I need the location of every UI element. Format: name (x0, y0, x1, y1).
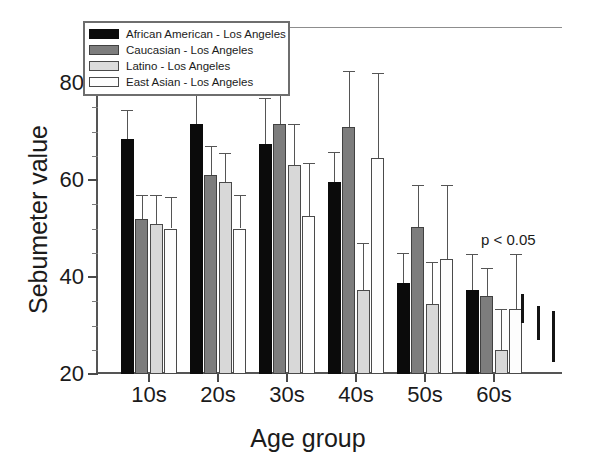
bar (150, 224, 163, 374)
x-tick (286, 374, 288, 382)
error-bar-cap (328, 152, 340, 153)
y-tick-major (88, 373, 98, 375)
bar (371, 158, 384, 374)
legend-item: Caucasian - Los Angeles (89, 42, 284, 57)
y-tick-major (88, 179, 98, 181)
legend-item: African American - Los Angeles (89, 26, 284, 41)
error-bar-stem (294, 124, 295, 165)
legend-swatch-icon (89, 29, 119, 39)
error-bar-cap (219, 153, 231, 154)
error-bar-cap (412, 185, 424, 186)
error-bar-stem (418, 185, 419, 227)
bar (397, 283, 410, 374)
x-tick-label: 20s (183, 382, 253, 408)
error-bar-cap (136, 195, 148, 196)
bar (302, 216, 315, 374)
y-tick-major (88, 276, 98, 278)
x-tick-label: 50s (390, 382, 460, 408)
error-bar-cap (205, 146, 217, 147)
bar (480, 296, 493, 374)
bar (219, 182, 232, 374)
error-bar-stem (378, 73, 379, 158)
error-bar-stem (142, 195, 143, 219)
bar (440, 259, 453, 374)
error-bar-cap (481, 268, 493, 269)
error-bar-stem (265, 98, 266, 144)
error-bar-stem (349, 71, 350, 127)
error-bar-cap (357, 243, 369, 244)
error-bar-stem (472, 254, 473, 290)
x-tick (355, 374, 357, 382)
x-tick-label: 10s (114, 382, 184, 408)
y-tick-minor (92, 204, 98, 205)
error-bar-cap (121, 110, 133, 111)
sebumeter-bar-chart: Sebumeter value Age group 20406080 10s20… (0, 0, 589, 474)
error-bar-cap (165, 197, 177, 198)
bar (273, 124, 286, 374)
y-tick-label: 40 (40, 264, 84, 290)
bar (190, 124, 203, 374)
bar (164, 229, 177, 375)
y-tick-label: 60 (40, 167, 84, 193)
error-bar-cap (259, 98, 271, 99)
error-bar-stem (447, 185, 448, 259)
error-bar-stem (516, 254, 517, 310)
error-bar-cap (343, 71, 355, 72)
error-bar-cap (234, 195, 246, 196)
legend-swatch-icon (89, 61, 119, 71)
x-tick (148, 374, 150, 382)
error-bar-stem (171, 197, 172, 229)
y-tick-minor (92, 229, 98, 230)
x-tick (493, 374, 495, 382)
significance-marker (537, 306, 540, 340)
error-bar-cap (466, 254, 478, 255)
error-bar-stem (156, 195, 157, 224)
bar (495, 350, 508, 374)
error-bar-stem (403, 253, 404, 283)
significance-marker (552, 311, 555, 362)
x-tick-label: 60s (459, 382, 529, 408)
x-tick-label: 40s (321, 382, 391, 408)
error-bar-stem (501, 309, 502, 350)
error-bar-cap (303, 163, 315, 164)
bar (233, 229, 246, 375)
error-bar-stem (334, 152, 335, 183)
bar (357, 290, 370, 374)
p-value-annotation: p < 0.05 (481, 231, 536, 248)
bar (328, 182, 341, 374)
bar (259, 144, 272, 374)
y-tick-minor (92, 350, 98, 351)
bar (288, 165, 301, 374)
significance-marker (521, 294, 524, 323)
bar (121, 139, 134, 374)
error-bar-cap (372, 73, 384, 74)
x-tick (217, 374, 219, 382)
legend-swatch-icon (89, 45, 119, 55)
error-bar-cap (150, 195, 162, 196)
error-bar-stem (309, 163, 310, 216)
chart-legend: African American - Los AngelesCaucasian … (83, 21, 290, 96)
y-tick-minor (92, 301, 98, 302)
legend-item: Latino - Los Angeles (89, 58, 284, 73)
error-bar-cap (510, 254, 522, 255)
y-tick-label: 20 (40, 361, 84, 387)
bar (135, 219, 148, 374)
error-bar-stem (211, 146, 212, 175)
y-tick-label: 80 (40, 70, 84, 96)
legend-item-label: East Asian - Los Angeles (126, 76, 253, 88)
error-bar-cap (397, 253, 409, 254)
error-bar-stem (432, 262, 433, 303)
y-tick-minor (92, 107, 98, 108)
legend-item: East Asian - Los Angeles (89, 74, 284, 89)
error-bar-stem (240, 195, 241, 229)
error-bar-stem (487, 268, 488, 296)
legend-swatch-icon (89, 77, 119, 87)
error-bar-stem (127, 110, 128, 139)
error-bar-stem (225, 153, 226, 182)
legend-item-label: Latino - Los Angeles (126, 60, 230, 72)
bar (204, 175, 217, 374)
legend-item-label: Caucasian - Los Angeles (126, 44, 253, 56)
x-tick (424, 374, 426, 382)
x-axis-title: Age group (108, 424, 508, 453)
error-bar-cap (426, 262, 438, 263)
